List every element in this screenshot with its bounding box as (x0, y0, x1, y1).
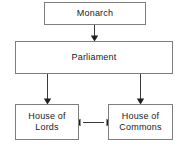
node-monarch: Monarch (44, 2, 146, 25)
node-house-of-lords-label: House of Lords (28, 111, 65, 133)
node-house-of-lords: House of Lords (15, 104, 79, 140)
edge-lords-to-commons (75, 119, 113, 126)
flow-diagram: Monarch Parliament House of Lords House … (0, 0, 187, 155)
edge-monarch-to-parliament (91, 25, 98, 42)
node-house-of-commons: House of Commons (108, 104, 173, 140)
node-house-of-commons-label: House of Commons (119, 111, 161, 133)
edge-parliament-to-lords (44, 74, 51, 105)
node-parliament-label: Parliament (72, 52, 117, 63)
edge-parliament-to-commons (137, 74, 144, 105)
node-monarch-label: Monarch (77, 8, 113, 19)
node-parliament: Parliament (15, 41, 173, 74)
